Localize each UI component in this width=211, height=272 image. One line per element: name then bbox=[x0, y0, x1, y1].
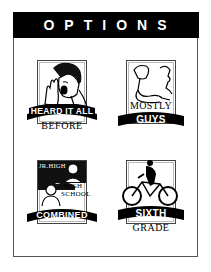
option-heard-it-all-before[interactable]: HEARD IT ALL BEFORE bbox=[27, 60, 97, 132]
jr-high-label: JR.HIGH bbox=[39, 162, 63, 169]
ribbon-label: SIXTH bbox=[116, 208, 186, 219]
ribbon-label: HEARD IT ALL bbox=[27, 106, 97, 116]
sub-label: GRADE bbox=[128, 222, 174, 233]
sub-label: BEFORE bbox=[39, 120, 85, 131]
option-sixth-grade[interactable]: SIXTH GRADE bbox=[116, 160, 186, 232]
ribbon-label: GUYS bbox=[116, 114, 186, 125]
ribbon-label: COMBINED bbox=[27, 210, 97, 220]
bicycle-rider-icon bbox=[116, 160, 186, 210]
upper-label: MOSTLY bbox=[128, 100, 174, 111]
option-mostly-guys[interactable]: MOSTLY GUYS bbox=[116, 60, 186, 132]
header-title: OPTIONS bbox=[43, 17, 176, 33]
high-school-label: HIGH SCHOOL bbox=[61, 182, 85, 198]
options-header: OPTIONS bbox=[13, 12, 199, 38]
option-combined[interactable]: JR.HIGH HIGH SCHOOL COMBINED bbox=[27, 160, 97, 232]
